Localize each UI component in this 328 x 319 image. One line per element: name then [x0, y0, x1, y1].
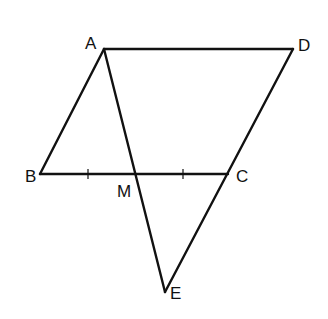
label-C: C — [236, 167, 248, 186]
label-B: B — [25, 167, 36, 186]
diagram-canvas: A D B C M E — [0, 0, 328, 319]
segment-AE — [104, 49, 165, 292]
segment-AB — [40, 49, 104, 174]
label-D: D — [298, 36, 310, 55]
label-M: M — [117, 182, 131, 201]
segment-DE — [165, 49, 293, 292]
label-E: E — [170, 284, 181, 303]
geometry-diagram: A D B C M E — [0, 0, 328, 319]
label-A: A — [85, 34, 97, 53]
